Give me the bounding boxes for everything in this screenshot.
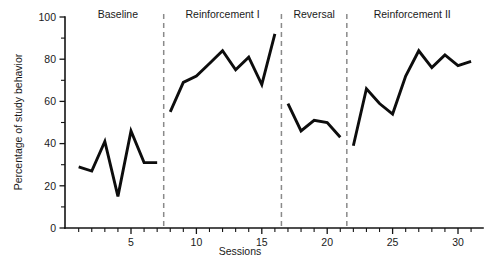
y-tick-label: 60	[44, 95, 56, 107]
phase-label: Reinforcement II	[374, 8, 451, 20]
x-tick-label: 5	[128, 236, 134, 248]
y-tick-label: 20	[44, 180, 56, 192]
data-line-reversal	[288, 104, 340, 138]
x-tick-label: 20	[321, 236, 333, 248]
y-axis-ticks	[60, 17, 66, 228]
x-tick-label: 10	[191, 236, 203, 248]
y-axis-title: Percentage of study behavior	[12, 53, 24, 190]
axes	[65, 17, 483, 228]
x-tick-label: 30	[452, 236, 464, 248]
y-tick-label: 80	[44, 53, 56, 65]
x-tick-label: 25	[387, 236, 399, 248]
x-axis-tick-labels: 51015202530	[128, 236, 464, 248]
chart-canvas: 020406080100 51015202530 BaselineReinfor…	[0, 0, 491, 268]
data-line-reinforcement-ii	[353, 51, 471, 146]
data-line-reinforcement-i	[170, 34, 275, 112]
study-behavior-chart: 020406080100 51015202530 BaselineReinfor…	[0, 0, 491, 268]
y-tick-label: 40	[44, 137, 56, 149]
phase-labels: BaselineReinforcement IReversalReinforce…	[98, 8, 451, 20]
phase-label: Baseline	[98, 8, 138, 20]
phase-label: Reinforcement I	[185, 8, 259, 20]
y-tick-label: 100	[38, 11, 56, 23]
data-line-baseline	[79, 131, 157, 196]
phase-label: Reversal	[293, 8, 334, 20]
x-axis-ticks	[79, 228, 471, 234]
x-axis-title: Sessions	[219, 245, 262, 257]
y-axis-tick-labels: 020406080100	[38, 11, 56, 234]
y-tick-label: 0	[50, 222, 56, 234]
data-series	[79, 34, 471, 196]
